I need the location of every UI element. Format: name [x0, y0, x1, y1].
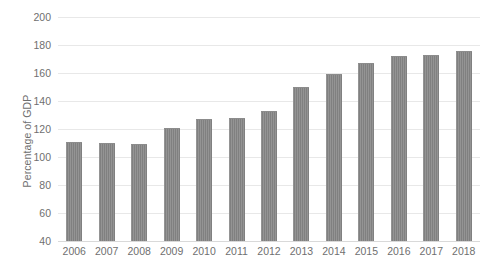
bar[interactable]	[66, 142, 82, 241]
bar[interactable]	[293, 87, 309, 241]
x-axis-tick-label: 2017	[420, 245, 443, 257]
bar[interactable]	[99, 143, 115, 241]
bar[interactable]	[358, 63, 374, 241]
x-axis-labels: 2006200720082009201020112012201320142015…	[58, 245, 480, 263]
x-axis-tick-label: 2006	[63, 245, 86, 257]
y-axis-title-label: Percentage of GDP	[21, 95, 33, 188]
x-axis-tick-label: 2010	[192, 245, 215, 257]
bar-slot	[448, 17, 480, 241]
bar-slot	[350, 17, 382, 241]
bar-slot	[220, 17, 252, 241]
y-axis-tick-label: 60	[39, 207, 51, 219]
bar[interactable]	[423, 55, 439, 241]
y-axis-tick-label: 80	[39, 179, 51, 191]
y-axis-tick-label: 180	[33, 39, 51, 51]
x-axis-tick-label: 2018	[452, 245, 475, 257]
x-axis-tick-label: 2016	[387, 245, 410, 257]
bar-slot	[285, 17, 317, 241]
bar-chart: Percentage of GDP 2001801601401201008060…	[0, 0, 487, 270]
x-axis-tick-label: 2011	[225, 245, 248, 257]
y-axis-tick-label: 120	[33, 123, 51, 135]
x-axis-tick-label: 2015	[355, 245, 378, 257]
bar-slot	[415, 17, 447, 241]
y-axis-tick-label: 40	[39, 235, 51, 247]
y-axis-tick-label: 140	[33, 95, 51, 107]
bar-slot	[253, 17, 285, 241]
bar[interactable]	[229, 118, 245, 241]
bar[interactable]	[326, 74, 342, 241]
bar-slot	[155, 17, 187, 241]
x-axis-tick-label: 2012	[257, 245, 280, 257]
bar[interactable]	[131, 144, 147, 241]
bar-slot	[58, 17, 90, 241]
plot-area: 200180160140120100806040	[58, 17, 480, 241]
bar-series	[58, 17, 480, 241]
bar-slot	[383, 17, 415, 241]
gridline	[58, 241, 480, 242]
y-axis-tick-label: 200	[33, 11, 51, 23]
bar-slot	[123, 17, 155, 241]
x-axis-tick-label: 2013	[290, 245, 313, 257]
x-axis-tick-label: 2009	[160, 245, 183, 257]
bar-slot	[90, 17, 122, 241]
bar[interactable]	[196, 119, 212, 241]
y-axis-tick-label: 160	[33, 67, 51, 79]
bar-slot	[318, 17, 350, 241]
bar[interactable]	[391, 56, 407, 241]
bar-slot	[188, 17, 220, 241]
x-axis-tick-label: 2007	[95, 245, 118, 257]
y-axis-tick-label: 100	[33, 151, 51, 163]
x-axis-tick-label: 2014	[322, 245, 345, 257]
bar[interactable]	[261, 111, 277, 241]
bar[interactable]	[456, 51, 472, 241]
bar[interactable]	[164, 128, 180, 241]
x-axis-tick-label: 2008	[127, 245, 150, 257]
